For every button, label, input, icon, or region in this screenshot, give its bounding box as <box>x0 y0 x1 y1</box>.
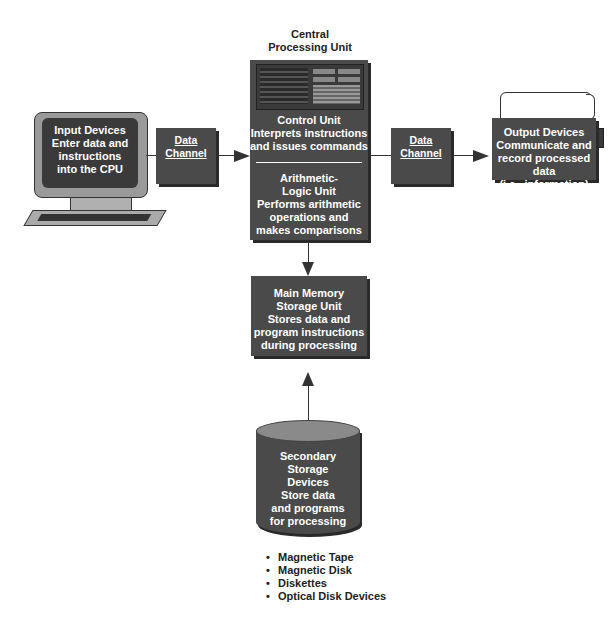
cylinder-top <box>256 420 360 442</box>
secondary-examples-list: Magnetic Tape Magnetic Disk Diskettes Op… <box>266 551 386 603</box>
memory-desc2: program instructions <box>251 326 367 339</box>
data-channel-left: Data Channel <box>156 128 216 184</box>
cpu-divider <box>256 162 362 163</box>
arrow-down-icon <box>302 262 314 276</box>
secondary-title3: Devices <box>256 476 360 489</box>
connector-cpu-channel <box>371 155 391 156</box>
control-unit-text: Control Unit Interprets instructions and… <box>250 114 368 153</box>
input-desc1: Enter data and <box>42 137 138 150</box>
secondary-desc3: for processing <box>256 515 360 528</box>
arrow-right-icon <box>234 150 250 162</box>
list-item: Magnetic Disk <box>266 564 386 577</box>
printer-paper-roll <box>586 94 595 120</box>
input-computer-icon: Input Devices Enter data and instruction… <box>34 112 174 222</box>
secondary-desc2: and programs <box>256 502 360 515</box>
alu-title1: Arithmetic- <box>250 172 368 185</box>
memory-desc1: Stores data and <box>251 313 367 326</box>
input-devices-screen: Input Devices Enter data and instruction… <box>42 118 138 188</box>
arrow-channel-output-line <box>454 155 474 156</box>
arrow-up-icon <box>302 372 314 386</box>
list-item: Magnetic Tape <box>266 551 386 564</box>
input-title: Input Devices <box>42 124 138 137</box>
secondary-storage-cylinder: Secondary Storage Devices Store data and… <box>256 420 360 545</box>
control-unit-desc1: Interprets instructions <box>250 127 368 140</box>
memory-title1: Main Memory <box>251 287 367 300</box>
secondary-title1: Secondary <box>256 450 360 463</box>
alu-desc3: makes comparisons <box>250 224 368 237</box>
output-desc3: (i.e., information) <box>492 178 596 191</box>
output-desc1: Communicate and <box>492 139 596 152</box>
secondary-storage-text: Secondary Storage Devices Store data and… <box>256 450 360 528</box>
secondary-desc1: Store data <box>256 489 360 502</box>
data-channel-left-label: Data Channel <box>156 128 216 160</box>
alu-desc1: Performs arithmetic <box>250 198 368 211</box>
secondary-title2: Storage <box>256 463 360 476</box>
cpu-box: Control Unit Interprets instructions and… <box>250 60 368 240</box>
control-unit-desc2: and issues commands <box>250 140 368 153</box>
main-memory-box: Main Memory Storage Unit Stores data and… <box>251 276 367 356</box>
cpu-title-line1: Central <box>255 28 365 41</box>
output-devices-box: Output Devices Communicate and record pr… <box>492 118 596 180</box>
arrow-cpu-memory-line <box>308 243 309 263</box>
output-desc2: record processed data <box>492 152 596 178</box>
alu-text: Arithmetic- Logic Unit Performs arithmet… <box>250 172 368 237</box>
cpu-title-line2: Processing Unit <box>255 41 365 54</box>
arrow-channel-cpu-line <box>219 155 235 156</box>
data-channel-right-label: Data Channel <box>391 128 451 160</box>
data-channel-right: Data Channel <box>391 128 451 184</box>
cpu-title: Central Processing Unit <box>255 28 365 54</box>
input-desc2: instructions <box>42 150 138 163</box>
alu-desc2: operations and <box>250 211 368 224</box>
list-item: Optical Disk Devices <box>266 590 386 603</box>
output-printer-icon: Output Devices Communicate and record pr… <box>492 92 612 182</box>
input-desc3: into the CPU <box>42 163 138 176</box>
arrow-right-icon <box>473 150 489 162</box>
control-unit-title: Control Unit <box>250 114 368 127</box>
memory-title2: Storage Unit <box>251 300 367 313</box>
memory-desc3: during processing <box>251 339 367 352</box>
output-title: Output Devices <box>492 126 596 139</box>
cpu-panel-graphic <box>256 64 364 110</box>
printer-paper <box>500 92 592 120</box>
connector-input-channel <box>146 155 156 156</box>
list-item: Diskettes <box>266 577 386 590</box>
monitor-stand <box>70 197 132 211</box>
alu-title2: Logic Unit <box>250 185 368 198</box>
keyboard <box>23 210 166 226</box>
